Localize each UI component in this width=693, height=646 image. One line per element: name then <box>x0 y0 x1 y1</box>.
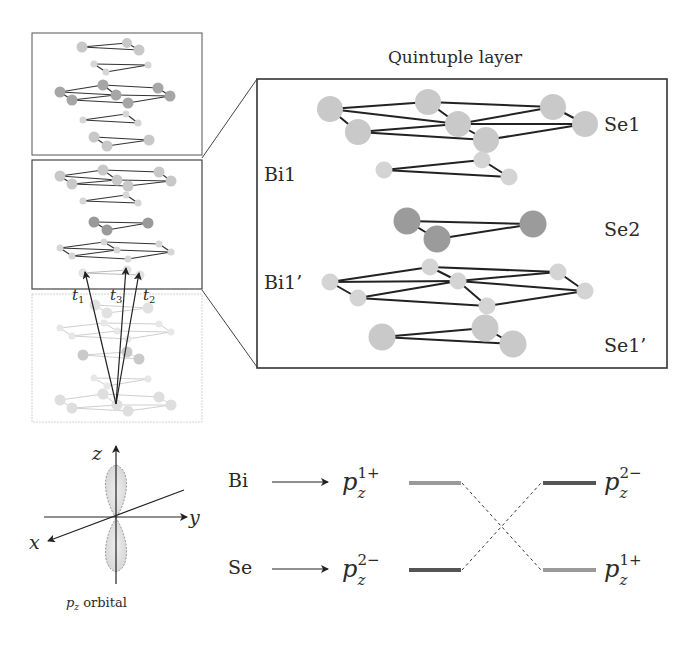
pz-orbital-caption: pz orbital <box>66 595 127 612</box>
layer-label-se2: Se2 <box>604 218 640 240</box>
crystal-panel-bottom-faded <box>32 294 202 422</box>
quintuple-layer-figure: t1 t3 t2 Quintuple layer <box>0 0 693 646</box>
x-axis-label: x <box>29 531 40 553</box>
z-axis-label: z <box>91 442 103 464</box>
crystal-panel-top <box>32 33 202 155</box>
zoom-connectors <box>202 79 257 367</box>
layer-label-se1-prime: Se1’ <box>604 334 646 356</box>
source-label-bi: Bi <box>228 469 248 491</box>
quintuple-layer-panel: Se1 Bi1 Se2 Bi1’ Se1’ <box>257 79 667 368</box>
quintuple-layer-title: Quintuple layer <box>388 47 523 67</box>
left-level-lower-label: p2−z <box>342 551 380 589</box>
crossing-line-2 <box>462 483 541 570</box>
layer-label-bi1: Bi1 <box>264 163 296 185</box>
source-label-se: Se <box>228 556 252 578</box>
right-level-upper-label: p2−z <box>604 464 642 502</box>
energy-level-diagram: Bi Se p1+z p2−z p2−z p1+z <box>228 464 642 589</box>
right-level-lower-label: p1+z <box>604 551 642 589</box>
crystal-panel-middle <box>32 160 202 289</box>
layer-label-bi1-prime: Bi1’ <box>264 271 302 293</box>
pz-orbital-diagram: z y x pz orbital <box>29 442 200 612</box>
crossing-line-1 <box>462 483 541 570</box>
layer-label-se1: Se1 <box>604 113 640 135</box>
y-axis-label: y <box>188 506 200 528</box>
left-level-upper-label: p1+z <box>342 464 380 502</box>
